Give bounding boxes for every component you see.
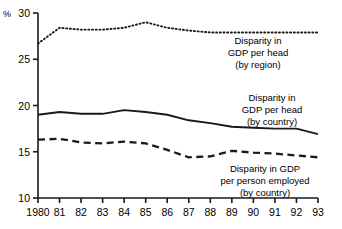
x-tick-label: 82 [75, 206, 87, 218]
annotation-country-employed: Disparity in GDPper person employed(by c… [220, 163, 309, 198]
annotation-region-line: (by region) [235, 59, 280, 70]
annotation-region-line: GDP per head [228, 47, 289, 58]
chart-container: 1015202530 19808182838485868788899091929… [0, 0, 342, 229]
y-tick-label: 20 [18, 100, 30, 112]
annotation-region-line: Disparity in [235, 35, 282, 46]
annotation-country-employed-line: (by country) [240, 187, 290, 198]
y-axis-unit-label-text: % [3, 9, 11, 19]
line-chart: 1015202530 19808182838485868788899091929… [0, 0, 342, 229]
x-tick-label: 91 [269, 206, 281, 218]
y-axis-tick-labels: 1015202530 [18, 7, 30, 204]
x-tick-label: 90 [248, 206, 260, 218]
x-tick-label: 1980 [26, 206, 50, 218]
x-tick-label: 81 [54, 206, 66, 218]
annotation-country-head-line: Disparity in [249, 92, 296, 103]
y-tick-label: 30 [18, 7, 30, 19]
annotation-country-employed-line: per person employed [220, 175, 309, 186]
annotation-country-head: Disparity inGDP per head(by country) [242, 92, 303, 127]
x-tick-label: 89 [226, 206, 238, 218]
series-line-2 [38, 139, 318, 158]
x-axis-tick-labels: 198081828384858687888990919293 [26, 206, 324, 218]
chart-annotations-group: Disparity inGDP per head(by region)Dispa… [220, 35, 309, 198]
annotation-country-head-line: GDP per head [242, 104, 303, 115]
annotation-country-employed-line: Disparity in GDP [230, 163, 300, 174]
y-tick-label: 15 [18, 146, 30, 158]
x-tick-label: 87 [183, 206, 195, 218]
y-tick-label: 25 [18, 53, 30, 65]
y-tick-label: 10 [18, 192, 30, 204]
x-tick-label: 93 [312, 206, 324, 218]
x-tick-label: 88 [204, 206, 216, 218]
x-tick-label: 86 [161, 206, 173, 218]
x-tick-label: 92 [291, 206, 303, 218]
y-axis-unit-label: % [3, 9, 11, 19]
x-tick-label: 84 [118, 206, 130, 218]
annotation-country-head-line: (by country) [247, 116, 297, 127]
annotation-region: Disparity inGDP per head(by region) [228, 35, 289, 70]
x-tick-label: 83 [97, 206, 109, 218]
x-tick-label: 85 [140, 206, 152, 218]
